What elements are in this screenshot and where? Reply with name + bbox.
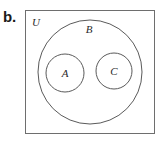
set-b-label: B bbox=[86, 23, 93, 35]
universe-label: U bbox=[32, 16, 41, 28]
set-c-label: C bbox=[110, 65, 118, 77]
set-a-label: A bbox=[61, 67, 69, 79]
venn-diagram-canvas: U B A C bbox=[0, 0, 165, 142]
venn-diagram-figure: b. U B A C bbox=[0, 0, 165, 142]
